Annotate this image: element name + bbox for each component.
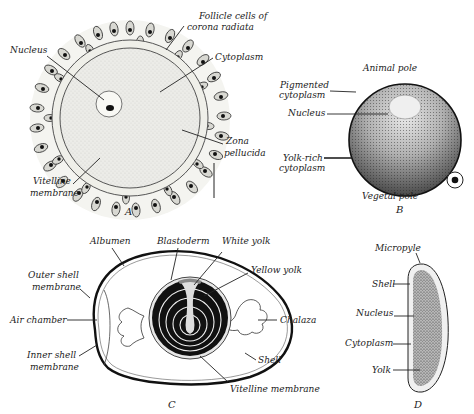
label-yolk-d: Yolk xyxy=(372,365,391,375)
panel-d-insect-egg: Micropyle Shell Nucleus Cytoplasm Yolk D xyxy=(345,243,448,410)
label-blastoderm: Blastoderm xyxy=(156,236,209,246)
ovum-nucleus xyxy=(96,91,122,117)
label-yellow-yolk: Yellow yolk xyxy=(251,265,302,275)
label-inner-shell: Inner shell xyxy=(26,350,76,360)
label-shell-d: Shell xyxy=(372,279,395,289)
label-pigmented: Pigmented xyxy=(279,80,329,90)
label-shell: Shell xyxy=(258,355,281,365)
label-cytoplasm-a: Cytoplasm xyxy=(215,52,263,62)
label-inner-shell-membrane: membrane xyxy=(30,362,79,372)
label-air-chamber: Air chamber xyxy=(9,315,67,325)
label-corona-radiata: corona radiata xyxy=(187,22,254,32)
frog-egg-nucleus xyxy=(389,95,421,119)
label-micropyle: Micropyle xyxy=(374,243,421,253)
panel-b-frog-egg: Animal pole Pigmented cytoplasm Nucleus … xyxy=(279,63,463,215)
panel-letter-b: B xyxy=(395,204,403,215)
panel-letter-a: A xyxy=(124,206,132,217)
egg-types-diagram: Follicle cells of corona radiata Nucleus… xyxy=(0,0,474,414)
label-membrane: membrane xyxy=(30,188,79,198)
ovum-cytoplasm xyxy=(60,48,200,188)
label-yolk-rich: Yolk-rich xyxy=(283,153,323,163)
label-outer-shell-membrane: membrane xyxy=(32,282,81,292)
label-outer-shell: Outer shell xyxy=(28,270,79,280)
label-vegetal-pole: Vegetal pole xyxy=(362,191,418,201)
label-vitelline: Vitelline xyxy=(33,176,71,186)
label-nucleus-b: Nucleus xyxy=(287,108,326,118)
label-animal-pole: Animal pole xyxy=(362,63,417,73)
label-albumen: Albumen xyxy=(89,236,131,246)
panel-letter-d: D xyxy=(413,399,422,410)
label-pigmented-cytoplasm: cytoplasm xyxy=(279,90,325,100)
label-nucleus-d: Nucleus xyxy=(355,308,394,318)
panel-c-hen-egg: Albumen Blastoderm White yolk Yellow yol… xyxy=(9,236,320,410)
label-pellucida: pellucida xyxy=(224,148,266,158)
label-cytoplasm-d: Cytoplasm xyxy=(345,338,393,348)
label-white-yolk: White yolk xyxy=(222,236,271,246)
label-vitelline-membrane-c: Vitelline membrane xyxy=(230,384,320,394)
label-chalaza: Chalaza xyxy=(280,315,316,325)
label-zona: Zona xyxy=(225,136,249,146)
label-follicle-cells: Follicle cells of xyxy=(198,11,269,21)
label-nucleus-a: Nucleus xyxy=(9,45,48,55)
panel-a-ovum: Follicle cells of corona radiata Nucleus… xyxy=(9,11,269,220)
panel-letter-c: C xyxy=(168,399,176,410)
label-yolk-rich-cytoplasm: cytoplasm xyxy=(279,163,325,173)
